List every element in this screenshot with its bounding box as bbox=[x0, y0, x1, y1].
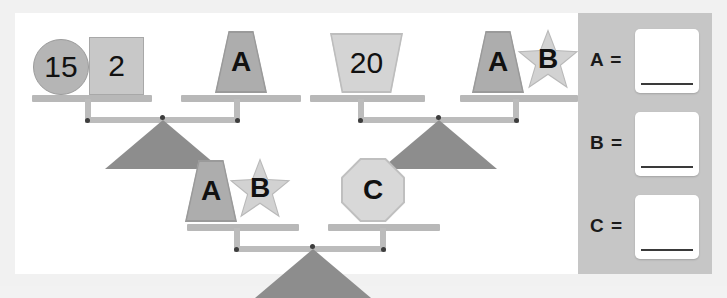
answer-input-b[interactable] bbox=[635, 112, 699, 176]
weight-label: B bbox=[538, 45, 558, 73]
answer-row-b: B = bbox=[578, 110, 712, 182]
weight-star-b[interactable]: B bbox=[229, 158, 291, 220]
puzzle-panel: 15 2 A 20 bbox=[15, 13, 578, 274]
weight-label: 15 bbox=[44, 52, 77, 82]
balance-post-left bbox=[234, 228, 240, 248]
answer-label-b: B = bbox=[590, 132, 623, 154]
balance-post-left bbox=[85, 99, 91, 119]
balance-pivot-left-dot bbox=[358, 118, 363, 123]
answer-input-c[interactable] bbox=[635, 195, 699, 259]
weight-label: A bbox=[488, 48, 508, 76]
weight-circle-15[interactable]: 15 bbox=[33, 39, 89, 95]
weight-label: 2 bbox=[108, 51, 125, 81]
balance-pan-right bbox=[181, 95, 301, 102]
answer-label-c: C = bbox=[590, 215, 623, 237]
balance-pan-left bbox=[187, 224, 299, 231]
answer-input-a[interactable] bbox=[635, 29, 699, 93]
balance-3: A B C bbox=[165, 143, 445, 271]
weight-label: 20 bbox=[350, 48, 383, 78]
answer-row-c: C = bbox=[578, 193, 712, 265]
balance-pivot-left-dot bbox=[85, 118, 90, 123]
weight-label: C bbox=[363, 176, 383, 204]
balance-pivot-left-dot bbox=[234, 247, 239, 252]
weight-octagon-c[interactable]: C bbox=[341, 158, 405, 222]
balance-pivot-right-dot bbox=[381, 247, 386, 252]
weight-label: A bbox=[201, 177, 221, 205]
balance-post-left bbox=[358, 99, 364, 119]
answer-row-a: A = bbox=[578, 27, 712, 99]
answer-underline bbox=[641, 83, 693, 85]
balance-pan-right bbox=[460, 95, 578, 102]
weight-label: B bbox=[250, 174, 270, 202]
answer-label-a: A = bbox=[590, 49, 622, 71]
balance-pan-left bbox=[310, 95, 425, 102]
balance-pivot-right-dot bbox=[235, 118, 240, 123]
balance-pivot-right-dot bbox=[514, 118, 519, 123]
weight-label: A bbox=[231, 48, 251, 76]
balance-fulcrum bbox=[255, 249, 371, 298]
balance-1: 15 2 A bbox=[15, 13, 305, 138]
weight-square-2[interactable]: 2 bbox=[89, 37, 144, 95]
balance-post-right bbox=[513, 99, 519, 119]
weight-trapezoid-20[interactable]: 20 bbox=[330, 33, 403, 93]
answer-panel: A = B = C = bbox=[578, 13, 712, 274]
weight-star-b[interactable]: B bbox=[517, 29, 579, 91]
answer-underline bbox=[641, 166, 693, 168]
balance-post-right bbox=[234, 99, 240, 119]
balance-post-right bbox=[380, 228, 386, 248]
balance-pan-left bbox=[32, 95, 152, 102]
balance-2: 20 A B bbox=[310, 13, 578, 138]
weight-trapezoid-a[interactable]: A bbox=[215, 31, 267, 93]
answer-underline bbox=[641, 249, 693, 251]
